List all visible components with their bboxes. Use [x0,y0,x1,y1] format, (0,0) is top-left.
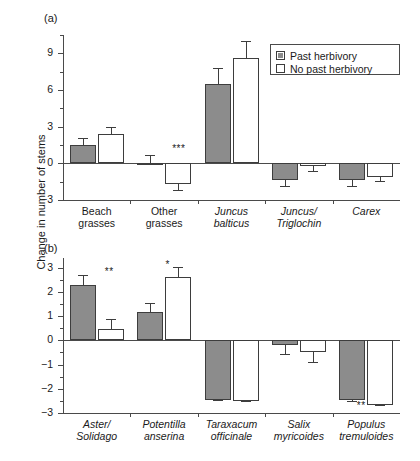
bar-past-herbivory [339,163,365,180]
bar-no-past-herbivory [367,163,393,176]
panel-a: (a) −30369***BeachgrassesOthergrassesJun… [0,0,420,240]
figure-root: Change in number of stems (a) −30369***B… [0,0,420,461]
x-category-label: Juncusbalticus [198,206,265,229]
error-bar [173,267,183,277]
x-tick [333,200,334,204]
y-tick-minor [60,182,63,183]
y-tick-label: 0 [27,333,53,345]
error-bar [308,352,318,363]
y-tick-label: 9 [27,46,53,58]
legend-swatch-icon [276,64,285,73]
bar-no-past-herbivory [233,340,259,401]
y-tick-minor [60,352,63,353]
error-bar [145,303,155,313]
bar-past-herbivory [205,84,231,163]
y-tick [58,127,63,128]
panel-b: (b) −3−2−10123*****Aster/SolidagoPotenti… [0,240,420,461]
bar-past-herbivory [70,145,96,163]
y-tick-label: −3 [27,406,53,418]
y-tick-label: 1 [27,309,53,321]
y-tick [58,90,63,91]
y-tick [58,200,63,201]
x-axis-line [63,413,400,414]
significance-marker: * [165,261,169,269]
y-tick-minor [60,280,63,281]
x-category-label: Carex [333,206,400,218]
y-tick-label: 0 [27,156,53,168]
y-tick-label: −1 [27,358,53,370]
x-category-label: Othergrasses [130,206,197,229]
error-bar [213,400,223,402]
y-axis-line [63,35,64,200]
error-bar [241,41,251,58]
y-tick-label: −3 [27,193,53,205]
error-bar [308,166,318,172]
error-bar [280,180,290,187]
bar-past-herbivory [137,163,163,165]
y-tick [58,340,63,341]
bar-no-past-herbivory [98,329,124,340]
y-tick-minor [60,328,63,329]
panel-b-tag: (b) [44,242,57,254]
y-tick [58,292,63,293]
bar-no-past-herbivory [165,277,191,340]
bar-no-past-herbivory [233,58,259,163]
y-axis-line [63,258,64,413]
error-bar [375,177,385,183]
x-category-label: Juncus/Triglochin [265,206,332,229]
x-tick [198,200,199,204]
y-tick-minor [60,401,63,402]
y-tick-minor [60,304,63,305]
significance-marker: ** [357,402,366,410]
bar-past-herbivory [205,340,231,399]
x-category-label: Aster/Solidago [63,419,130,442]
x-category-label: Potentillaanserina [130,419,197,442]
y-tick-label: 3 [27,261,53,273]
y-tick [58,413,63,414]
y-tick [58,163,63,164]
y-tick-label: 2 [27,285,53,297]
error-bar [280,345,290,355]
x-category-label: Populustremuloides [333,419,400,442]
x-tick [130,413,131,417]
significance-marker: ** [105,268,114,276]
x-category-label: Salixmyricoides [265,419,332,442]
legend-item-2: No past herbivory [276,62,393,75]
y-tick-minor [60,35,63,36]
error-bar [375,405,385,406]
error-bar [347,180,357,186]
legend: Past herbivoryNo past herbivory [270,44,400,75]
panel-a-tag: (a) [44,12,57,24]
legend-item-label: Past herbivory [290,50,357,62]
y-tick-label: 6 [27,83,53,95]
error-bar [78,138,88,145]
error-bar [78,275,88,285]
error-bar [106,319,116,329]
y-tick-minor [60,108,63,109]
bar-no-past-herbivory [165,163,191,184]
legend-swatch-icon [276,51,285,60]
y-tick [58,389,63,390]
bar-no-past-herbivory [367,340,393,404]
x-category-label: Beachgrasses [63,206,130,229]
panel-b-plot-area: −3−2−10123*****Aster/SolidagoPotentillaa… [63,258,400,413]
bar-no-past-herbivory [98,134,124,163]
significance-marker: *** [172,145,185,153]
error-bar [145,155,155,162]
y-tick [58,268,63,269]
x-tick [265,413,266,417]
y-tick [58,316,63,317]
y-tick [58,53,63,54]
error-bar [213,68,223,84]
y-tick [58,365,63,366]
bar-no-past-herbivory [300,340,326,352]
legend-item-1: Past herbivory [276,49,393,62]
bar-past-herbivory [272,163,298,180]
y-tick-minor [60,72,63,73]
error-bar [106,127,116,134]
legend-item-label: No past herbivory [290,63,372,75]
y-tick-label: 3 [27,120,53,132]
x-category-label: Taraxacumofficinale [198,419,265,442]
x-tick [130,200,131,204]
bar-past-herbivory [137,312,163,340]
